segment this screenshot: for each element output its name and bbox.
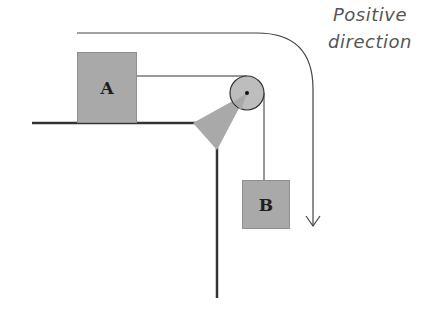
- block-a-label: A: [100, 78, 113, 98]
- direction-label-line2: direction: [300, 28, 440, 55]
- block-a: A: [77, 52, 137, 123]
- block-b: B: [242, 180, 290, 229]
- pulley-axle: [245, 91, 249, 95]
- pulley-diagram: A B Positive direction: [0, 0, 448, 323]
- positive-direction-label: Positive direction: [300, 1, 440, 55]
- direction-label-line1: Positive: [300, 1, 440, 28]
- block-b-label: B: [259, 195, 273, 215]
